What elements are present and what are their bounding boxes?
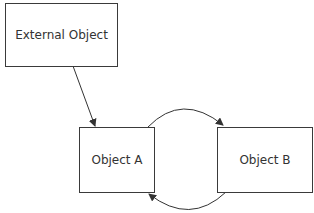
node-label: Object B xyxy=(239,153,290,167)
edge-external-to-a xyxy=(73,66,95,126)
node-label: Object A xyxy=(91,153,142,167)
node-object-a[interactable]: Object A xyxy=(79,127,155,193)
node-label: External Object xyxy=(15,28,108,42)
node-object-b[interactable]: Object B xyxy=(217,127,313,193)
edge-a-to-b xyxy=(148,109,223,127)
edge-b-to-a xyxy=(149,192,226,210)
node-external-object[interactable]: External Object xyxy=(5,3,118,67)
